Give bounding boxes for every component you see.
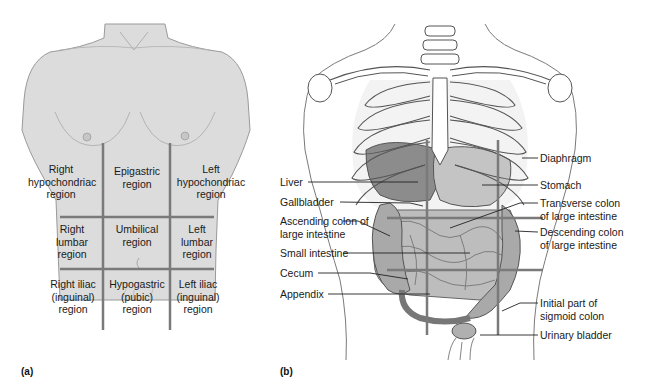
label-stomach: Stomach — [540, 179, 581, 192]
panel-a-letter: (a) — [21, 366, 33, 377]
region-umbilical: Umbilical region — [106, 223, 168, 248]
panel-b-letter: (b) — [280, 366, 293, 377]
label-ascending-colon: Ascending colon of large intestine — [280, 215, 369, 240]
region-left-iliac: Left iliac (inguinal) region — [172, 278, 224, 316]
label-transverse-colon: Transverse colon of large intestine — [540, 197, 620, 222]
region-left-lumbar: Left lumbar region — [172, 223, 222, 261]
region-epigastric: Epigastric region — [106, 165, 168, 190]
label-sigmoid-colon: Initial part of sigmoid colon — [540, 297, 604, 322]
panel-b-organs: Liver Gallbladder Ascending colon of lar… — [270, 0, 672, 389]
label-liver: Liver — [280, 176, 303, 189]
region-right-iliac: Right iliac (inguinal) region — [44, 278, 102, 316]
panel-a-abdominal-regions: Right hypochondriac region Epigastric re… — [0, 0, 270, 389]
label-gallbladder: Gallbladder — [280, 196, 334, 209]
label-urinary-bladder: Urinary bladder — [540, 329, 612, 342]
label-cecum: Cecum — [280, 267, 313, 280]
region-left-hypochondriac: Left hypochondriac region — [176, 163, 246, 201]
region-right-hypochondriac: Right hypochondriac region — [28, 163, 94, 201]
label-appendix: Appendix — [280, 288, 324, 301]
label-small-intestine: Small intestine — [280, 247, 348, 260]
region-hypogastric: Hypogastric (pubic) region — [104, 278, 170, 316]
region-right-lumbar: Right lumbar region — [42, 223, 102, 261]
label-diaphragm: Diaphragm — [540, 152, 591, 165]
label-descending-colon: Descending colon of large intestine — [540, 226, 623, 251]
